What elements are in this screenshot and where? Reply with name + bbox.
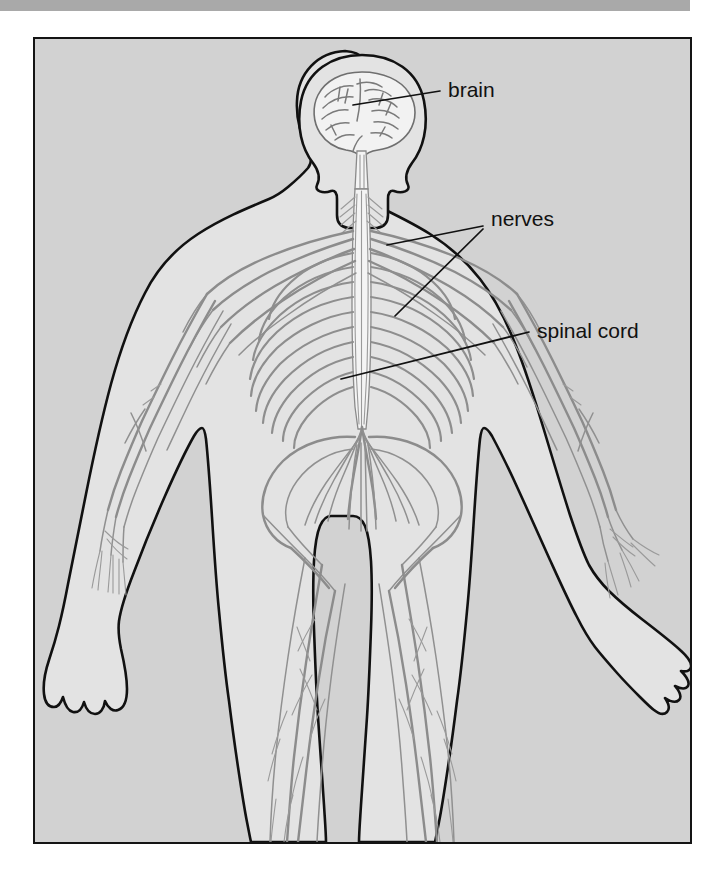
nervous-system-diagram: brain nerves spinal cord (35, 39, 690, 842)
spinal-cord-label-text: spinal cord (537, 319, 639, 342)
page-root: brain nerves spinal cord (0, 0, 721, 870)
brain-stem (355, 151, 368, 189)
nerves-label-text: nerves (491, 207, 554, 230)
scan-artifact-bar (0, 0, 690, 11)
illustration-plate: brain nerves spinal cord (33, 37, 692, 844)
spinal-cord-group (352, 189, 371, 429)
brain-label-text: brain (448, 78, 495, 101)
